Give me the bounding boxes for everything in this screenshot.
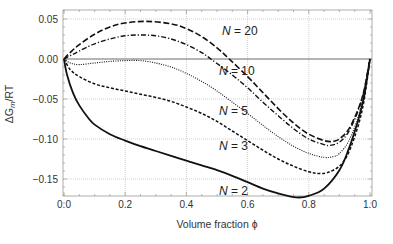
x-tick-label: 0.8 <box>302 199 316 210</box>
label-n5: N = 5 <box>219 104 248 118</box>
plot-border <box>63 10 372 196</box>
label-n20: N = 20 <box>222 24 258 38</box>
x-tick-label: 0.4 <box>179 199 193 210</box>
y-axis-label: ΔGm/RT <box>3 84 17 123</box>
y-tick-label: −0.15 <box>33 174 59 185</box>
x-tick-label: 1.0 <box>363 199 377 210</box>
curve-n10 <box>64 35 370 146</box>
flory-huggins-chart: 0.00.20.40.60.81.00.050.00−0.05−0.10−0.1… <box>0 0 393 244</box>
curve-n3 <box>64 59 370 174</box>
x-axis-label: Volume fraction ϕ <box>176 218 257 230</box>
curve-n2 <box>64 59 370 198</box>
y-tick-label: −0.05 <box>33 94 59 105</box>
curve-n5 <box>64 59 370 158</box>
grid-lines <box>63 10 372 196</box>
label-n2: N = 2 <box>219 184 248 198</box>
label-n10: N = 10 <box>219 64 255 78</box>
x-tick-label: 0.6 <box>241 199 255 210</box>
x-tick-label: 0.0 <box>57 199 71 210</box>
y-tick-label: 0.05 <box>39 14 59 25</box>
curves <box>64 21 370 197</box>
y-tick-label: 0.00 <box>39 54 59 65</box>
y-tick-label: −0.10 <box>33 134 59 145</box>
plot-frame <box>63 10 372 196</box>
curve-n20 <box>64 21 370 141</box>
x-tick-label: 0.2 <box>118 199 132 210</box>
label-n3: N = 3 <box>219 139 248 153</box>
